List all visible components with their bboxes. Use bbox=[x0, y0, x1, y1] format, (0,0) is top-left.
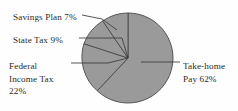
pie-label-take-home-pay-line-2: Pay 62% bbox=[183, 73, 238, 86]
pie-label-federal-income-tax-line-3: 22% bbox=[9, 85, 71, 98]
pie-label-take-home-pay: Take-home Pay 62% bbox=[183, 60, 238, 85]
pie-label-federal-income-tax-line-2: Income Tax bbox=[9, 73, 71, 86]
pie-chart-figure: Savings Plan 7% State Tax 9% Federal Inc… bbox=[0, 0, 238, 111]
pie-label-savings-plan: Savings Plan 7% bbox=[13, 11, 77, 24]
pie-label-federal-income-tax-line-1: Federal bbox=[9, 60, 71, 73]
pie-label-take-home-pay-line-1: Take-home bbox=[183, 60, 238, 73]
pie-label-state-tax: State Tax 9% bbox=[13, 34, 63, 47]
pie-label-federal-income-tax: Federal Income Tax 22% bbox=[9, 60, 71, 98]
